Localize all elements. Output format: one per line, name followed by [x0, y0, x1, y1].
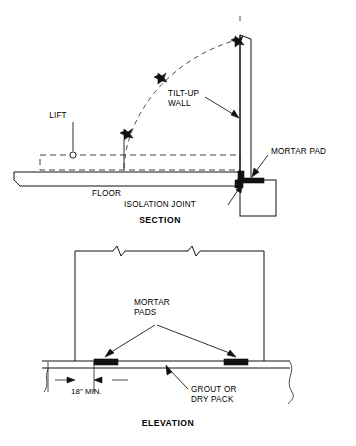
- lift-label: LIFT: [49, 111, 67, 120]
- mortar-pads-label-line2: PADS: [134, 308, 157, 317]
- mortar-pad-label: MORTAR PAD: [271, 147, 326, 156]
- mortar-pads-label-line1: MORTAR: [134, 298, 170, 307]
- dimension-label: 18" MIN.: [71, 387, 102, 396]
- tilt-up-wall-label-line1: TILT-UP: [168, 89, 200, 98]
- tilt-up-wall-leader: [205, 97, 239, 118]
- isolation-joint-label: ISOLATION JOINT: [124, 200, 196, 209]
- elevation-view: MORTAR PADS GROUT OR DRY PACK 18" MIN. E…: [42, 246, 293, 428]
- mortar-pads-elevation: [94, 359, 248, 365]
- mortar-pad-leader: [252, 155, 268, 177]
- footing-block: [240, 180, 276, 216]
- left-extension-line: [44, 369, 48, 392]
- section-view: LIFT TILT-UP WALL MORTAR PAD FLOOR ISOLA…: [14, 16, 326, 225]
- mortar-pads-leaders: [105, 325, 236, 357]
- elevation-view-title: ELEVATION: [142, 418, 194, 428]
- lift-point-markers: [120, 36, 244, 140]
- drawing-sheet: LIFT TILT-UP WALL MORTAR PAD FLOOR ISOLA…: [0, 0, 356, 446]
- tilt-up-wall-detail-figure: LIFT TILT-UP WALL MORTAR PAD FLOOR ISOLA…: [0, 0, 356, 446]
- section-view-title: SECTION: [139, 215, 181, 225]
- grout-label-line2: DRY PACK: [191, 395, 234, 404]
- grout-label-line1: GROUT OR: [191, 385, 237, 394]
- tilt-up-wall-panel: [240, 35, 251, 180]
- grout-leader: [166, 365, 188, 389]
- panel-flat-outline: [40, 155, 240, 170]
- lift-point-circle: [70, 152, 76, 158]
- floor-label: FLOOR: [92, 189, 121, 198]
- floor-slab: [14, 172, 240, 186]
- tilt-up-wall-label-line2: WALL: [168, 99, 191, 108]
